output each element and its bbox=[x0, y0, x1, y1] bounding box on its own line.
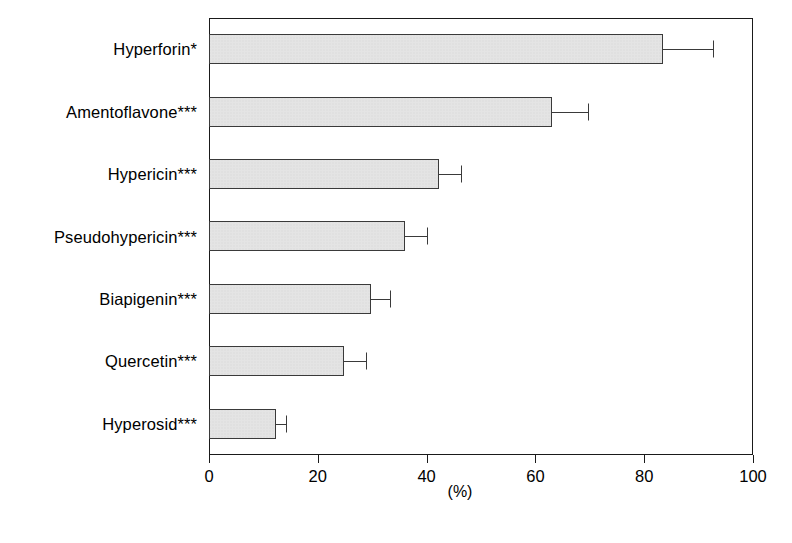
error-bar-cap bbox=[390, 290, 391, 307]
bar-group bbox=[209, 221, 405, 251]
bar bbox=[209, 34, 663, 64]
error-bar-line bbox=[552, 112, 588, 113]
y-tick-label-biapigenin: Biapigenin*** bbox=[99, 289, 197, 308]
error-bar-cap bbox=[713, 41, 714, 58]
error-bar-line bbox=[405, 236, 427, 237]
bar-group bbox=[209, 159, 439, 189]
y-tick-label-pseudohypericin: Pseudohypericin*** bbox=[54, 227, 197, 246]
bar-group bbox=[209, 34, 663, 64]
bar-row bbox=[209, 143, 753, 205]
bar-row bbox=[209, 18, 753, 80]
y-axis-labels: Hyperforin* Amentoflavone*** Hypericin**… bbox=[0, 18, 203, 455]
error-bar-cap bbox=[461, 166, 462, 183]
bar-row bbox=[209, 205, 753, 267]
bar bbox=[209, 409, 276, 439]
bar bbox=[209, 97, 552, 127]
error-bar-cap bbox=[286, 415, 287, 432]
bar-group bbox=[209, 409, 276, 439]
bar-group bbox=[209, 97, 552, 127]
y-tick-label-hyperosid: Hyperosid*** bbox=[102, 414, 197, 433]
y-tick-label-amentoflavone: Amentoflavone*** bbox=[66, 102, 197, 121]
x-tick bbox=[535, 455, 536, 463]
y-tick-label-quercetin: Quercetin*** bbox=[105, 352, 197, 371]
error-bar-line bbox=[276, 424, 286, 425]
y-tick-label-hyperforin: Hyperforin* bbox=[113, 40, 197, 59]
x-axis-title: (%) bbox=[0, 483, 792, 501]
bar-group bbox=[209, 346, 344, 376]
bar-row bbox=[209, 268, 753, 330]
bar-group bbox=[209, 284, 371, 314]
x-tick bbox=[209, 455, 210, 463]
x-tick bbox=[644, 455, 645, 463]
x-tick bbox=[753, 455, 754, 463]
x-tick bbox=[427, 455, 428, 463]
bar-row bbox=[209, 393, 753, 455]
bar bbox=[209, 284, 371, 314]
error-bar-line bbox=[344, 361, 366, 362]
bar bbox=[209, 346, 344, 376]
error-bar-cap bbox=[366, 353, 367, 370]
x-axis-title-text: (%) bbox=[448, 483, 473, 500]
error-bar-line bbox=[439, 174, 461, 175]
bar-chart: Hyperforin* Amentoflavone*** Hypericin**… bbox=[0, 0, 792, 543]
error-bar-line bbox=[371, 299, 389, 300]
bar-series bbox=[209, 18, 753, 455]
error-bar-cap bbox=[427, 228, 428, 245]
error-bar-line bbox=[663, 49, 713, 50]
bar-row bbox=[209, 80, 753, 142]
bar-row bbox=[209, 330, 753, 392]
x-tick bbox=[318, 455, 319, 463]
bar bbox=[209, 159, 439, 189]
bar bbox=[209, 221, 405, 251]
y-tick-label-hypericin: Hypericin*** bbox=[108, 165, 197, 184]
error-bar-cap bbox=[588, 103, 589, 120]
